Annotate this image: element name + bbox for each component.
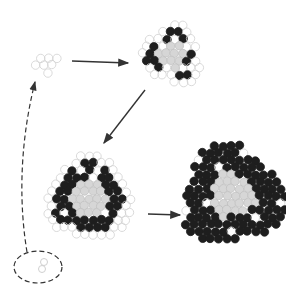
gray-particle [84,208,92,216]
black-particle [263,220,271,228]
arrow-stage1-to-stage2 [72,61,128,63]
open-particle [44,194,52,202]
black-particle [190,177,198,185]
black-particle [56,187,64,195]
diagram-canvas [0,0,286,296]
black-particle [186,227,194,235]
open-particle [118,223,126,231]
black-particle [214,148,222,156]
black-particle [272,178,280,186]
stage-3-medium-cluster [44,152,135,239]
black-particle [85,165,93,173]
open-particle [202,198,210,206]
gray-particle [76,208,84,216]
open-particle [170,78,178,86]
black-particle [113,187,121,195]
black-particle [190,206,198,214]
open-particle [125,208,133,216]
open-particle [110,223,118,231]
arrow-stage3-to-stage4 [148,214,180,215]
black-particle [191,162,199,170]
black-particle [198,148,206,156]
open-particle [97,158,105,166]
black-particle [206,234,214,242]
black-particle [276,212,284,220]
black-particle [268,170,276,178]
open-particle [227,227,235,235]
black-particle [214,235,222,243]
open-particle [191,43,199,51]
open-particle [179,78,187,86]
black-particle [231,235,239,243]
black-particle [97,215,105,223]
black-particle [244,170,252,178]
open-particle [191,57,199,65]
black-particle [166,27,174,35]
stage-1-seed-cluster [31,54,61,77]
black-particle [93,223,101,231]
open-particle [72,230,80,238]
open-particle [31,61,39,69]
open-particle [186,63,194,71]
ellipse-particle [39,266,46,273]
black-particle [64,187,72,195]
black-particle [243,227,251,235]
gray-particle [96,187,104,195]
black-particle [182,57,190,65]
open-particle [81,230,89,238]
open-particle [187,77,195,85]
open-particle [154,34,162,42]
cluster-growth-diagram [0,0,286,296]
open-particle [126,195,134,203]
open-particle [89,231,97,239]
ellipse-particle [41,259,48,266]
black-particle [252,227,260,235]
open-particle [97,231,105,239]
stage-4-large-cluster [181,141,286,243]
arrow-stage2-to-stage3 [104,90,145,143]
dashed-arrow-to-seed [22,82,35,252]
black-particle [214,220,222,228]
black-particle [53,195,61,203]
open-particle [106,231,114,239]
open-particle [138,49,146,57]
black-particle [199,163,207,171]
gray-particle [167,56,175,64]
gray-particle [223,192,231,200]
stage-2-small-cluster [138,21,203,87]
gray-particle [80,187,88,195]
black-particle [260,228,268,236]
black-particle [68,209,76,217]
gray-particle [235,199,243,207]
black-particle [259,198,267,206]
black-particle [223,235,231,243]
open-particle [109,166,117,174]
gray-particle [162,49,170,57]
black-particle [272,220,280,228]
open-particle [40,61,48,69]
gray-particle [219,212,227,220]
gray-particle [214,191,222,199]
black-particle [101,223,109,231]
open-particle [44,69,52,77]
black-particle [256,163,264,171]
dashed-ellipse [14,251,62,283]
